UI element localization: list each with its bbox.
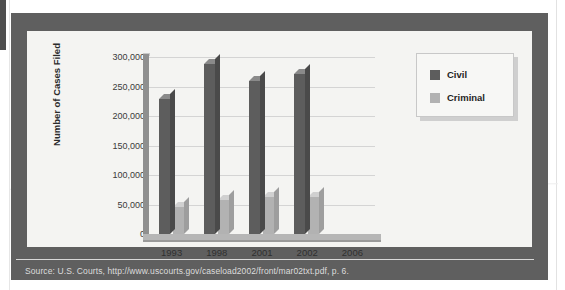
y-axis-tick-label: 0 xyxy=(85,229,145,239)
x-axis-tick-label: 2001 xyxy=(239,247,285,258)
source-divider xyxy=(16,259,534,260)
x-axis-tick-label: 1993 xyxy=(149,247,195,258)
gridline xyxy=(149,57,375,58)
bar-civil-1998 xyxy=(204,64,215,234)
bar-front-face xyxy=(249,81,260,234)
x-axis-tick-label: 2006 xyxy=(329,247,375,258)
legend-item-criminal: Criminal xyxy=(430,92,485,103)
bar-civil-1993 xyxy=(159,99,170,234)
bar-side-face xyxy=(229,190,234,234)
legend-item-civil: Civil xyxy=(430,69,467,80)
bar-front-face xyxy=(204,64,215,234)
y-axis-title: Number of Cases Filed xyxy=(51,30,62,160)
chart-legend: CivilCriminal xyxy=(416,53,514,117)
bar-side-face xyxy=(184,197,189,234)
chart-panel: Number of Cases Filed 300,000250,000200,… xyxy=(27,31,532,247)
bar-side-face xyxy=(170,89,175,234)
y-axis-tick-label: 100,000 xyxy=(85,170,145,180)
y-axis-wall xyxy=(143,54,149,234)
x-axis-floor-edge xyxy=(143,240,381,242)
y-axis-tick-label: 150,000 xyxy=(85,141,145,151)
bar-side-face xyxy=(274,187,279,234)
bar-civil-2001 xyxy=(249,81,260,234)
bar-side-face xyxy=(305,64,310,234)
bar-front-face xyxy=(159,99,170,234)
figure-frame: Number of Cases Filed 300,000250,000200,… xyxy=(11,13,548,280)
chart-plot-wrapper: Number of Cases Filed 300,000250,000200,… xyxy=(27,31,532,247)
bar-front-face xyxy=(294,74,305,234)
x-axis-tick-label: 2002 xyxy=(284,247,330,258)
plot-area: 19931998200120022006 xyxy=(149,57,375,234)
legend-swatch-icon xyxy=(430,93,440,103)
bar-side-face xyxy=(215,54,220,234)
source-note: Source: U.S. Courts, http://www.uscourts… xyxy=(25,265,525,277)
y-axis-tick-label: 200,000 xyxy=(85,111,145,121)
y-axis-tick-label: 300,000 xyxy=(85,52,145,62)
page-left-rule xyxy=(9,0,10,290)
legend-label: Criminal xyxy=(447,92,485,103)
y-axis-tick-label: 50,000 xyxy=(85,200,145,210)
left-edge-sliver xyxy=(0,0,6,50)
x-axis-tick-label: 1998 xyxy=(194,247,240,258)
page-right-rule xyxy=(556,0,557,290)
legend-label: Civil xyxy=(447,69,467,80)
y-axis-tick-labels: 300,000250,000200,000150,000100,00050,00… xyxy=(83,31,145,247)
bar-side-face xyxy=(260,71,265,234)
y-axis-tick-label: 250,000 xyxy=(85,82,145,92)
bar-civil-2002 xyxy=(294,74,305,234)
legend-swatch-icon xyxy=(430,70,440,80)
bar-side-face xyxy=(319,187,324,234)
